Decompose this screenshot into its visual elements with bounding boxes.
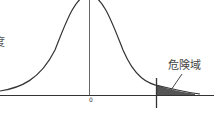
bell-curve [0, 0, 200, 94]
origin-label: 0 [89, 97, 93, 103]
left-axis-label: 度 [0, 37, 5, 48]
leader-line [171, 74, 182, 90]
distribution-diagram [0, 0, 214, 113]
critical-region-label: 危険域 [168, 60, 201, 71]
